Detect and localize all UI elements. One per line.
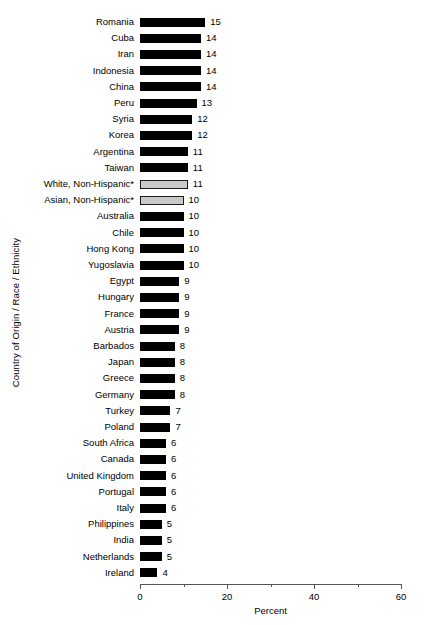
category-label: Turkey (105, 403, 134, 419)
x-axis-title: Percent (140, 605, 401, 616)
category-label: United Kingdom (66, 468, 134, 484)
bar (140, 504, 166, 513)
bar (140, 50, 201, 59)
x-axis-tick-label: 20 (207, 591, 247, 602)
category-label: Italy (117, 500, 134, 516)
bar-value-label: 9 (184, 273, 189, 289)
bar-row: Turkey7 (0, 403, 425, 419)
category-label: Portugal (99, 484, 134, 500)
bar-row: South Africa6 (0, 435, 425, 451)
bar-row: Poland7 (0, 419, 425, 435)
bar (140, 99, 197, 108)
bar-value-label: 10 (189, 208, 200, 224)
bar-value-label: 14 (206, 63, 217, 79)
plot-area: Romania15Cuba14Iran14Indonesia14China14P… (0, 0, 425, 625)
category-label: Egypt (110, 273, 134, 289)
bar-value-label: 15 (210, 14, 221, 30)
category-label: Netherlands (83, 549, 134, 565)
bar-row: China14 (0, 79, 425, 95)
bar (140, 309, 179, 318)
bar-value-label: 6 (171, 484, 176, 500)
bar-row: Egypt9 (0, 273, 425, 289)
category-label: Cuba (111, 30, 134, 46)
category-label: France (104, 306, 134, 322)
x-axis-tick (401, 584, 402, 589)
category-label: Iran (118, 46, 134, 62)
bar (140, 358, 175, 367)
bar-value-label: 14 (206, 30, 217, 46)
x-axis-tick (314, 584, 315, 589)
bar-value-label: 10 (189, 257, 200, 273)
category-label: Ireland (105, 565, 134, 581)
category-label: Korea (109, 127, 134, 143)
bar-value-label: 11 (193, 160, 203, 176)
x-axis-tick-label: 40 (294, 591, 334, 602)
bar (140, 325, 179, 334)
bar-value-label: 9 (184, 306, 189, 322)
bar-row: White, Non-Hispanic*11 (0, 176, 425, 192)
bar-value-label: 10 (189, 241, 200, 257)
bar-row: Australia10 (0, 208, 425, 224)
bar-row: Japan8 (0, 354, 425, 370)
bar-row: Cuba14 (0, 30, 425, 46)
bar-row: Hong Kong10 (0, 241, 425, 257)
bar (140, 228, 184, 237)
bar-value-label: 5 (167, 549, 172, 565)
bar-value-label: 11 (193, 176, 203, 192)
bar (140, 390, 175, 399)
bar (140, 244, 184, 253)
x-axis-tick-label: 0 (120, 591, 160, 602)
bar-value-label: 10 (189, 192, 200, 208)
category-label: India (113, 532, 134, 548)
bar-value-label: 7 (175, 403, 180, 419)
category-label: Hong Kong (86, 241, 134, 257)
bar-value-label: 14 (206, 79, 217, 95)
category-label: South Africa (83, 435, 134, 451)
bar-row: Taiwan11 (0, 160, 425, 176)
category-label: Romania (96, 14, 134, 30)
bar-value-label: 11 (193, 144, 203, 160)
category-label: Japan (108, 354, 134, 370)
category-label: Yugoslavia (88, 257, 134, 273)
bar-row: Argentina11 (0, 144, 425, 160)
bar-row: Peru13 (0, 95, 425, 111)
bar-row: France9 (0, 306, 425, 322)
bar-value-label: 12 (197, 111, 208, 127)
bar-row: Netherlands5 (0, 549, 425, 565)
bar (140, 552, 162, 561)
category-label: Indonesia (93, 63, 134, 79)
bar (140, 568, 157, 577)
bar (140, 293, 179, 302)
category-label: Austria (104, 322, 134, 338)
x-axis-tick (140, 584, 141, 589)
category-label: Germany (95, 387, 134, 403)
category-label: White, Non-Hispanic* (44, 176, 134, 192)
bar-row: Greece8 (0, 370, 425, 386)
bar-row: Iran14 (0, 46, 425, 62)
bar-row: Austria9 (0, 322, 425, 338)
bar-row: Philippines5 (0, 516, 425, 532)
bar (140, 536, 162, 545)
bar (140, 277, 179, 286)
bar-value-label: 6 (171, 468, 176, 484)
category-label: China (109, 79, 134, 95)
category-label: Barbados (93, 338, 134, 354)
bar-value-label: 14 (206, 46, 217, 62)
bar (140, 196, 184, 205)
bar-row: Italy6 (0, 500, 425, 516)
category-label: Australia (97, 208, 134, 224)
bar-value-label: 5 (167, 532, 172, 548)
bar-value-label: 8 (180, 354, 185, 370)
category-label: Chile (112, 225, 134, 241)
bar-value-label: 9 (184, 322, 189, 338)
category-label: Asian, Non-Hispanic* (44, 192, 134, 208)
bar (140, 147, 188, 156)
bar (140, 374, 175, 383)
bar (140, 212, 184, 221)
bar-value-label: 6 (171, 451, 176, 467)
bar-row: Korea12 (0, 127, 425, 143)
bar (140, 487, 166, 496)
bar-row: Portugal6 (0, 484, 425, 500)
bar-row: Ireland4 (0, 565, 425, 581)
category-label: Argentina (93, 144, 134, 160)
